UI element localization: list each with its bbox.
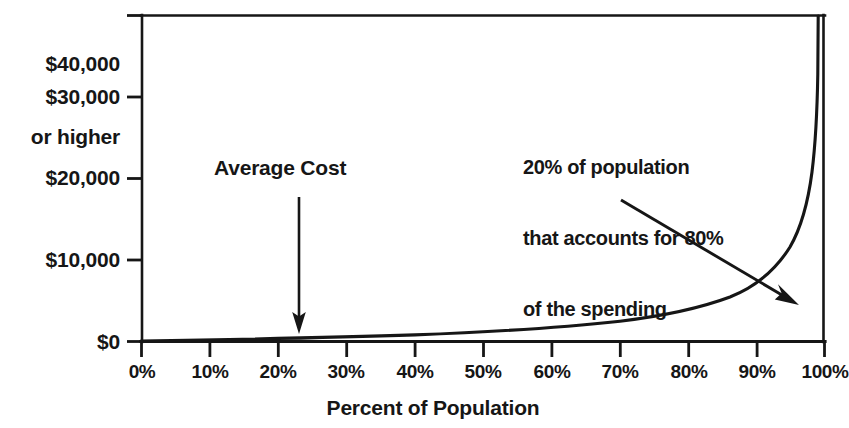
- x-tick-label-0: 0%: [111, 361, 173, 383]
- annotation-pareto-line1: 20% of population: [523, 156, 833, 180]
- annotation-pareto-line3: of the spending: [523, 298, 833, 322]
- x-tick-label-40: 40%: [381, 361, 449, 383]
- annotation-average-cost: Average Cost: [214, 156, 414, 181]
- x-axis-title: Percent of Population: [283, 396, 583, 421]
- x-tick-label-20: 20%: [244, 361, 312, 383]
- y-tick-label-10000: $10,000: [0, 248, 120, 273]
- chart-figure: $40,000 or higher $30,000 $20,000 $10,00…: [0, 0, 849, 428]
- average-cost-arrow: [292, 197, 306, 334]
- x-tick-label-30: 30%: [312, 361, 380, 383]
- y-tick-label-40000-line2: or higher: [0, 125, 120, 149]
- x-tick-label-50: 50%: [449, 361, 517, 383]
- y-tick-label-0: $0: [0, 330, 120, 355]
- x-tick-label-10: 10%: [176, 361, 244, 383]
- y-tick-label-30000: $30,000: [0, 85, 120, 110]
- annotation-pareto: 20% of population that accounts for 80% …: [523, 109, 833, 369]
- y-tick-label-40000-line1: $40,000: [0, 52, 120, 76]
- y-tick-label-20000: $20,000: [0, 166, 120, 191]
- annotation-pareto-line2: that accounts for 80%: [523, 227, 833, 251]
- y-tick-marks: [127, 16, 142, 342]
